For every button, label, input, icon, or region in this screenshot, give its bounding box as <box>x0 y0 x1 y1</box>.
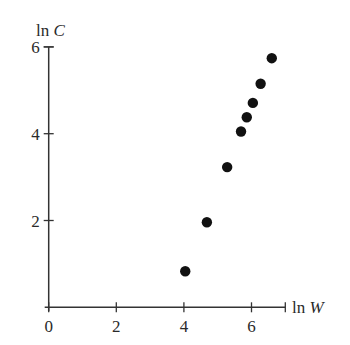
x-tick-label: 2 <box>112 317 121 336</box>
axes: 0246246 <box>31 38 285 336</box>
data-point-marker <box>255 79 265 89</box>
data-point-marker <box>248 98 258 108</box>
y-tick-label: 4 <box>31 125 40 144</box>
data-point-marker <box>180 266 190 276</box>
data-point-marker <box>267 53 277 63</box>
data-point-marker <box>242 112 252 122</box>
x-tick-label: 4 <box>180 317 189 336</box>
y-tick-label: 6 <box>31 38 40 57</box>
data-point-marker <box>236 126 246 136</box>
x-tick-label: 0 <box>44 317 53 336</box>
y-axis-label: ln C <box>36 21 65 40</box>
data-point-marker <box>222 162 232 172</box>
x-axis-label: ln W <box>292 298 325 317</box>
data-point-marker <box>202 217 212 227</box>
data-points <box>180 53 277 276</box>
x-tick-label: 6 <box>247 317 256 336</box>
y-tick-label: 2 <box>31 212 40 231</box>
scatter-plot: 0246246 ln C ln W <box>0 0 350 345</box>
